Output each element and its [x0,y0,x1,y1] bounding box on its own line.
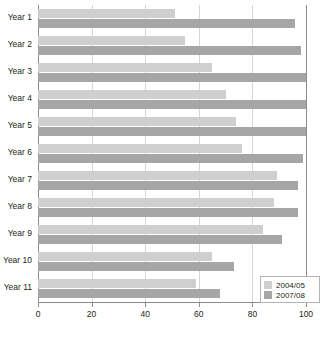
category-label: Year 2 [0,40,32,49]
axis-tick [38,303,39,307]
bar [38,127,306,136]
bar [38,154,303,163]
axis-tick-label: 20 [77,309,107,319]
axis-tick [92,303,93,307]
category-label: Year 1 [0,13,32,22]
plot-area [38,5,307,302]
category-label: Year 3 [0,67,32,76]
category-label: Year 6 [0,148,32,157]
bar [38,63,212,72]
bar [38,9,175,18]
legend: 2004/052007/08 [260,276,320,303]
axis-tick-label: 40 [130,309,160,319]
axis-tick [252,303,253,307]
bar [38,36,185,45]
bar [38,225,263,234]
legend-swatch-icon [264,281,272,289]
bar [38,90,226,99]
legend-label: 2004/05 [276,281,305,290]
axis-tick [306,303,307,307]
category-axis-labels: Year 1Year 2Year 3Year 4Year 5Year 6Year… [0,5,36,302]
axis-tick [199,303,200,307]
category-label: Year 4 [0,94,32,103]
category-label: Year 11 [0,283,32,292]
legend-swatch-icon [264,291,272,299]
bar [38,100,306,109]
bar [38,198,274,207]
bar [38,73,306,82]
axis-tick [145,303,146,307]
bar [38,117,236,126]
bar [38,262,234,271]
axis-tick-label: 80 [237,309,267,319]
bar [38,208,298,217]
legend-label: 2007/08 [276,291,305,300]
bar [38,279,196,288]
bar [38,252,212,261]
axis-tick-label: 60 [184,309,214,319]
category-label: Year 10 [0,256,32,265]
bar [38,181,298,190]
legend-item: 2004/05 [264,280,305,290]
bar [38,289,220,298]
axis-tick-label: 100 [291,309,321,319]
category-label: Year 7 [0,175,32,184]
axis-tick-label: 0 [23,309,53,319]
bar [38,19,295,28]
bar [38,46,301,55]
bar [38,144,242,153]
bar [38,171,277,180]
plot-right-border [306,5,307,302]
category-label: Year 5 [0,121,32,130]
legend-item: 2007/08 [264,290,305,300]
bar [38,235,282,244]
category-label: Year 8 [0,202,32,211]
bar-chart: Year 1Year 2Year 3Year 4Year 5Year 6Year… [0,0,323,337]
category-label: Year 9 [0,229,32,238]
